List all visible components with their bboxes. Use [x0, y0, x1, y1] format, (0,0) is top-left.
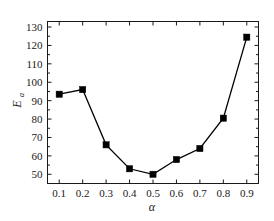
- chart-background: [0, 0, 274, 221]
- x-tick-label: 0.3: [99, 187, 113, 199]
- x-tick-label: 0.9: [240, 187, 254, 199]
- y-tick-label: 100: [26, 76, 43, 88]
- data-point-marker: [244, 34, 250, 40]
- y-tick-label: 70: [32, 131, 44, 143]
- data-point-marker: [150, 171, 156, 177]
- y-axis-title-text: E: [10, 100, 24, 109]
- data-point-marker: [197, 145, 203, 151]
- x-tick-label: 0.1: [52, 187, 66, 199]
- x-tick-label: 0.8: [216, 187, 230, 199]
- line-chart: 5060708090100110120130 0.10.20.30.40.50.…: [0, 0, 274, 221]
- x-tick-label: 0.4: [123, 187, 137, 199]
- y-tick-label: 80: [32, 113, 44, 125]
- y-tick-label: 90: [32, 95, 44, 107]
- y-tick-label: 50: [32, 168, 44, 180]
- data-point-marker: [103, 142, 109, 148]
- data-point-marker: [56, 91, 62, 97]
- x-tick-label: 0.6: [170, 187, 184, 199]
- y-tick-label: 60: [32, 150, 44, 162]
- x-tick-label: 0.5: [146, 187, 160, 199]
- x-axis-tick-labels: 0.10.20.30.40.50.60.70.80.9: [52, 187, 254, 199]
- data-point-marker: [220, 115, 226, 121]
- y-tick-label: 130: [26, 21, 43, 33]
- data-point-marker: [173, 156, 179, 162]
- data-point-marker: [126, 166, 132, 172]
- x-tick-label: 0.7: [193, 187, 207, 199]
- chart-figure: 5060708090100110120130 0.10.20.30.40.50.…: [0, 0, 274, 221]
- y-tick-label: 110: [26, 58, 43, 70]
- x-axis-title: α: [149, 200, 156, 214]
- data-point-marker: [80, 87, 86, 93]
- y-tick-label: 120: [26, 39, 43, 51]
- y-axis-title-subscript: a: [17, 93, 26, 97]
- x-tick-label: 0.2: [76, 187, 90, 199]
